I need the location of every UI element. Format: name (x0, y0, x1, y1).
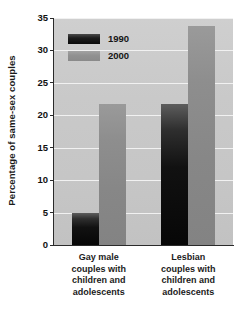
x-axis-category-label-line: couples with (140, 264, 236, 276)
y-axis-tick-label: 5 (43, 207, 48, 219)
legend-swatch-1990-icon (68, 34, 100, 44)
y-axis-tick: 30 (37, 44, 54, 56)
x-axis-category-label-line: couples with (51, 264, 147, 276)
x-axis-category-label-line: Lesbian (140, 252, 236, 264)
y-axis-tick: 10 (37, 174, 54, 186)
y-axis-tick: 25 (37, 77, 54, 89)
legend-swatch-2000-icon (68, 51, 100, 61)
legend: 1990 2000 (68, 32, 160, 66)
x-axis-category-label-line: children and (140, 275, 236, 287)
y-axis-title: Percentage of same-sex couples (0, 0, 22, 260)
plot-area: 1990 2000 (54, 18, 233, 245)
y-axis-tick-label: 15 (37, 142, 48, 154)
x-axis-line (53, 245, 234, 246)
y-axis-tick: 15 (37, 142, 54, 154)
legend-label-1990: 1990 (108, 34, 129, 44)
bar-chart-figure: Percentage of same-sex couples 353025201… (0, 0, 248, 315)
y-axis-title-text: Percentage of same-sex couples (6, 55, 17, 205)
legend-label-2000: 2000 (108, 51, 129, 61)
legend-item-2000: 2000 (68, 49, 160, 63)
y-axis-tick-label: 35 (37, 12, 48, 24)
y-axis-tick-label: 0 (43, 239, 48, 251)
y-axis-ticks: 35302520151050 (22, 0, 54, 315)
x-axis-category-label: Gay malecouples withchildren andadolesce… (51, 252, 147, 298)
y-axis-tick: 35 (37, 12, 54, 24)
y-axis-tick-label: 10 (37, 174, 48, 186)
legend-item-1990: 1990 (68, 32, 160, 46)
gridline (54, 18, 233, 19)
y-axis-tick-label: 30 (37, 44, 48, 56)
y-axis-tick: 20 (37, 109, 54, 121)
y-axis-tick-label: 25 (37, 77, 48, 89)
x-axis-category-label-line: children and (51, 275, 147, 287)
bar (161, 104, 188, 245)
x-axis-category-label-line: adolescents (140, 287, 236, 299)
x-axis-category-label-line: Gay male (51, 252, 147, 264)
bar (188, 26, 215, 245)
bar (99, 104, 126, 245)
x-axis-category-label-line: adolescents (51, 287, 147, 299)
bar (72, 213, 99, 245)
x-axis-category-labels: Gay malecouples withchildren andadolesce… (54, 252, 233, 312)
y-axis-tick-label: 20 (37, 109, 48, 121)
x-axis-category-label: Lesbiancouples withchildren andadolescen… (140, 252, 236, 298)
